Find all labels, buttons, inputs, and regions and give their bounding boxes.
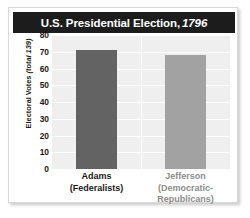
chart-title: U.S. Presidential Election,1796 [41,17,207,29]
y-tick-label: 70 [40,48,49,56]
chart-region: Electoral Votes (total 139) 807060504030… [13,35,235,199]
y-tick-label: 20 [40,131,49,139]
y-tick-label: 30 [40,115,49,123]
y-tick-label: 0 [44,165,49,173]
figure-card: U.S. Presidential Election,1796 Electora… [8,7,238,203]
plot-area [52,35,230,169]
category-party: Republicans) [141,194,230,206]
category-name: Adams [52,171,141,183]
y-tick-label: 50 [40,81,49,89]
category-name: Jefferson [141,171,230,183]
x-axis-category-labels: Adams(Federalists)Jefferson(Democratic-R… [52,171,230,218]
y-tick-label: 80 [40,31,49,39]
y-axis-tick-labels: 80706050403020100 [29,35,49,169]
category-party: (Federalists) [52,183,141,195]
bar-adams [76,50,117,169]
bar-jefferson [165,55,206,169]
category-party: (Democratic- [141,183,230,195]
y-tick-label: 40 [40,98,49,106]
category-label-adams: Adams(Federalists) [52,171,141,194]
category-label-jefferson: Jefferson(Democratic-Republicans) [141,171,230,206]
y-tick-label: 10 [40,148,49,156]
chart-title-year: 1796 [182,17,207,29]
chart-title-main: U.S. Presidential Election, [41,17,180,29]
category-divider-gridline [141,35,142,169]
y-tick-label: 60 [40,64,49,72]
